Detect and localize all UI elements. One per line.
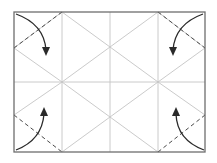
crease-left-lower-diagonal xyxy=(14,82,62,115)
crease-left-upper-diagonal xyxy=(14,48,62,82)
crease-right-lower-diagonal xyxy=(158,82,205,115)
crease-right-upper-diagonal xyxy=(158,48,205,82)
crease-lines xyxy=(14,12,205,152)
fold-top-right-dashed-line xyxy=(158,12,205,48)
origami-diagram xyxy=(0,0,217,163)
arrow-top-right-icon xyxy=(169,14,203,56)
fold-top-left-dashed-line xyxy=(14,12,62,48)
arrow-top-left-icon xyxy=(16,14,50,56)
